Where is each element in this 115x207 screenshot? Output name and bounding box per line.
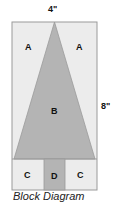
piece-label-b: B [51,106,58,116]
diagram-caption: Block Diagram [13,190,85,202]
piece-label-c-right: C [77,170,84,180]
block-diagram: A A B C D C [0,0,115,207]
piece-label-a-right: A [76,42,83,52]
piece-label-d: D [51,171,58,181]
piece-label-a-left: A [25,42,32,52]
piece-label-c-left: C [24,170,31,180]
